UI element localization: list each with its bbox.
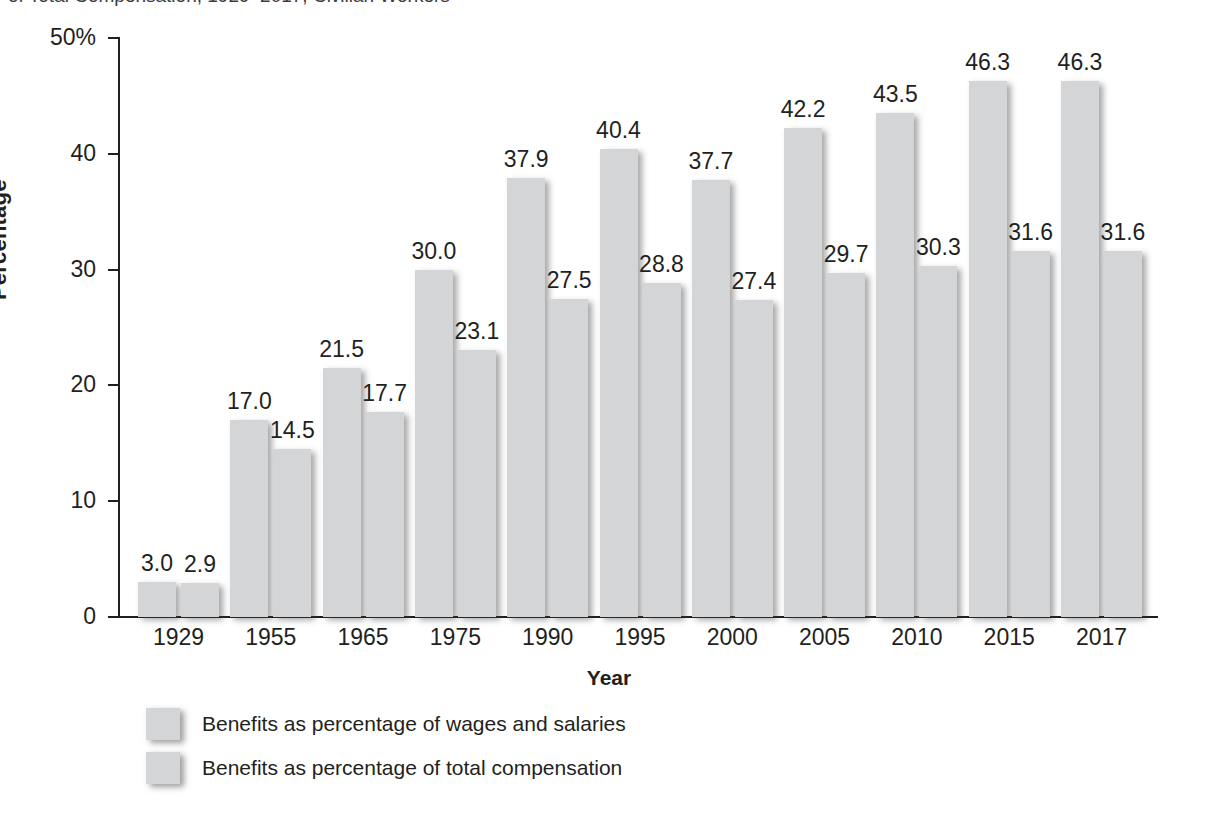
bar	[600, 149, 638, 617]
y-axis-title: Percentage	[0, 179, 12, 300]
y-axis-tick-label: 10	[0, 489, 96, 512]
bar	[919, 266, 957, 617]
chart-legend: Benefits as percentage of wages and sala…	[146, 702, 626, 790]
bar-value-label: 2.9	[172, 553, 228, 576]
bar	[1012, 251, 1050, 617]
bar-value-label: 31.6	[1003, 221, 1059, 244]
bar-value-label: 27.4	[726, 270, 782, 293]
bar-value-label: 46.3	[1052, 51, 1108, 74]
bar	[273, 449, 311, 617]
bar	[138, 582, 176, 617]
bar	[550, 299, 588, 617]
bar	[1061, 81, 1099, 617]
bar-value-label: 28.8	[634, 253, 690, 276]
bar-value-label: 31.6	[1095, 221, 1151, 244]
bar	[323, 368, 361, 617]
legend-item[interactable]: Benefits as percentage of total compensa…	[146, 746, 626, 790]
bar-value-label: 37.7	[683, 150, 739, 173]
chart-title: of Total Compensation, 1929–2017, Civili…	[0, 0, 1218, 8]
legend-label: Benefits as percentage of wages and sala…	[202, 712, 626, 736]
bar	[507, 178, 545, 617]
legend-label: Benefits as percentage of total compensa…	[202, 756, 622, 780]
bar-value-label: 17.0	[221, 390, 277, 413]
x-axis-tick-label: 2017	[1047, 624, 1157, 650]
bar-value-label: 14.5	[264, 419, 320, 442]
bar	[181, 583, 219, 617]
legend-swatch-icon	[146, 752, 180, 784]
bar	[1104, 251, 1142, 617]
y-axis-tick-label: 20	[0, 373, 96, 396]
bar	[827, 273, 865, 617]
bar	[366, 412, 404, 617]
bar	[735, 300, 773, 617]
bar-value-label: 23.1	[449, 320, 505, 343]
bar	[458, 350, 496, 617]
bar-value-label: 29.7	[818, 243, 874, 266]
bar-value-label: 21.5	[314, 338, 370, 361]
bar	[415, 270, 453, 617]
bar	[876, 113, 914, 617]
bar	[692, 180, 730, 617]
bar	[784, 128, 822, 617]
x-axis-title: Year	[0, 666, 1218, 690]
bar-value-label: 43.5	[867, 83, 923, 106]
y-axis-tick-label: 30	[0, 258, 96, 281]
bar-value-label: 37.9	[498, 148, 554, 171]
bar-value-label: 17.7	[357, 382, 413, 405]
y-axis-tick-label: 0	[0, 605, 96, 628]
legend-item[interactable]: Benefits as percentage of wages and sala…	[146, 702, 626, 746]
bar-value-label: 27.5	[541, 269, 597, 292]
bar-value-label: 40.4	[591, 119, 647, 142]
bar-value-label: 30.0	[406, 240, 462, 263]
y-axis-tick-label: 50%	[0, 26, 96, 49]
bar-value-label: 46.3	[960, 51, 1016, 74]
bar-value-label: 42.2	[775, 98, 831, 121]
bar	[643, 283, 681, 617]
bar	[969, 81, 1007, 617]
bar	[230, 420, 268, 617]
bar-value-label: 30.3	[910, 236, 966, 259]
y-axis-tick-label: 40	[0, 142, 96, 165]
legend-swatch-icon	[146, 708, 180, 740]
